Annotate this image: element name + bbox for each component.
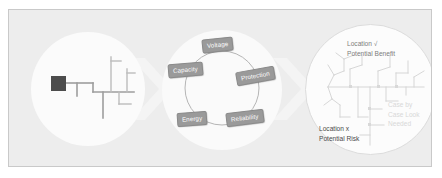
annotation-line: Case by	[388, 100, 420, 110]
annotation-location-risk: Location x Potential Risk	[319, 124, 359, 143]
cycle-node-label: Reliability	[231, 112, 259, 122]
annotation-line: Potential Benefit	[347, 49, 395, 59]
cycle-node-label: Capacity	[173, 65, 198, 74]
annotation-line: Potential Risk	[319, 134, 359, 144]
cycle-node-label: Energy	[182, 114, 203, 122]
annotation-line: Location x	[319, 124, 359, 134]
annotation-line: Needed	[388, 119, 420, 129]
substation-marker	[51, 76, 66, 91]
slide-canvas: Voltage Protection Reliability Energy Ca…	[0, 0, 442, 178]
cycle-node-label: Voltage	[207, 40, 229, 49]
feeder-network-diagram	[31, 32, 145, 146]
cycle-node-label: Protection	[241, 70, 271, 82]
cycle-node-energy[interactable]: Energy	[177, 111, 208, 127]
stage-middle-circle: Voltage Protection Reliability Energy Ca…	[162, 30, 282, 150]
stage-right-circle: Location √ Potential Benefit Location x …	[305, 24, 432, 155]
annotation-location-benefit: Location √ Potential Benefit	[347, 39, 395, 58]
annotation-line: Location √	[347, 39, 395, 49]
stage-left-circle	[31, 32, 145, 146]
annotation-line: Case Look	[388, 110, 420, 120]
diagram-panel: Voltage Protection Reliability Energy Ca…	[8, 9, 432, 167]
annotation-case-by-case: Case by Case Look Needed	[388, 100, 420, 129]
criteria-cycle: Voltage Protection Reliability Energy Ca…	[162, 30, 282, 150]
